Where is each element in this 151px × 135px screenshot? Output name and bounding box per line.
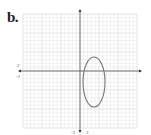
tick-label-x-pos: 2 (86, 130, 89, 135)
tick-label-y-neg: -2 (16, 74, 21, 79)
ellipse-curve (83, 57, 105, 107)
coordinate-plane: 2 -2 -2 2 (0, 0, 151, 135)
tick-label-y-pos: 2 (17, 63, 20, 68)
tick-label-x-neg: -2 (71, 130, 76, 135)
arrow-left-icon (18, 70, 21, 73)
arrow-down-icon (79, 130, 82, 133)
arrow-right-icon (139, 70, 142, 73)
arrow-up-icon (79, 9, 82, 12)
